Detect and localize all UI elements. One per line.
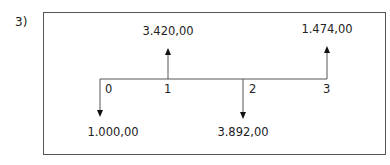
flow-value-1: 3.420,00 [142, 26, 193, 38]
period-label-0: 0 [105, 84, 112, 96]
period-label-3: 3 [323, 84, 330, 96]
flow-value-3: 1.474,00 [301, 24, 352, 36]
flow-value-2: 3.892,00 [217, 127, 268, 139]
arrow-down-icon [240, 79, 246, 119]
period-label-2: 2 [249, 84, 256, 96]
arrow-down-icon [97, 79, 103, 117]
flow-value-0: 1.000,00 [87, 127, 138, 139]
arrow-up-icon [165, 48, 171, 79]
period-label-1: 1 [164, 84, 171, 96]
arrow-up-icon [324, 46, 330, 79]
